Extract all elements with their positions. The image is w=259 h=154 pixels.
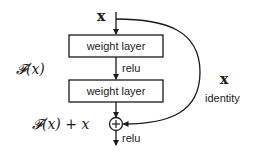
weight-layer-1: weight layer [69,35,163,57]
relu-mid-label: relu [122,62,140,74]
residual-block-diagram: x weight layer relu weight layer relu x … [0,0,259,154]
input-label: x [97,8,106,24]
residual-function-label: 𝓕(x) [16,61,45,77]
relu-out-label: relu [122,132,140,144]
weight-layer-1-label: weight layer [86,40,146,52]
sum-output-label: 𝓕(x) + x [32,116,89,132]
weight-layer-2: weight layer [69,80,163,102]
shortcut-variable-label: x [220,71,229,87]
shortcut-identity-label: identity [205,92,240,104]
sum-node [110,118,123,131]
weight-layer-2-label: weight layer [86,85,146,97]
